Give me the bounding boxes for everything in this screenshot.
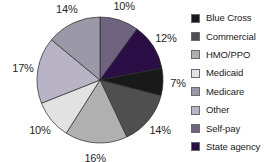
legend-item[interactable]: Other [191, 101, 275, 119]
legend-item-label: Medicare [206, 87, 244, 97]
legend-color-swatch [191, 106, 200, 115]
legend-color-swatch [191, 142, 200, 151]
pie-value-label: 16% [84, 152, 105, 162]
legend-item[interactable]: State agency [191, 138, 275, 156]
legend-item[interactable]: Blue Cross [191, 9, 275, 27]
legend-item-label: Other [206, 105, 229, 115]
legend-item-label: Commercial [206, 32, 256, 42]
legend-item-label: State agency [206, 142, 260, 152]
pie-value-label: 7% [170, 77, 186, 88]
legend-item[interactable]: Medicare [191, 83, 275, 101]
legend-item-label: Blue Cross [206, 13, 251, 23]
pie-value-label: 14% [56, 4, 77, 15]
legend-item[interactable]: Commercial [191, 27, 275, 45]
chart-legend: Blue CrossCommercialHMO/PPOMedicaidMedic… [191, 9, 275, 157]
pie-value-label: 10% [113, 0, 134, 11]
legend-color-swatch [191, 14, 200, 23]
legend-color-swatch [191, 32, 200, 41]
pie-value-label: 14% [149, 124, 170, 135]
legend-item[interactable]: Self-pay [191, 119, 275, 137]
pie-plot-area: 10%12%7%14%16%10%17%14% [0, 0, 185, 162]
legend-color-swatch [191, 69, 200, 78]
legend-item-label: Medicaid [206, 68, 243, 78]
legend-item[interactable]: HMO/PPO [191, 46, 275, 64]
legend-item-label: Self-pay [206, 124, 240, 134]
legend-item[interactable]: Medicaid [191, 64, 275, 82]
pie-value-label: 12% [155, 33, 176, 44]
legend-color-swatch [191, 87, 200, 96]
legend-color-swatch [191, 50, 200, 59]
pie-slice-group [37, 17, 163, 143]
legend-color-swatch [191, 124, 200, 133]
pie-chart-figure: 10%12%7%14%16%10%17%14% Blue CrossCommer… [0, 0, 275, 162]
pie-value-label: 17% [12, 62, 33, 73]
pie-svg [0, 0, 185, 162]
pie-value-label: 10% [29, 124, 50, 135]
legend-item-label: HMO/PPO [206, 50, 250, 60]
